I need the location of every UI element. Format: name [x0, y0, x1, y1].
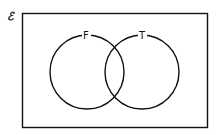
set-f-circle [50, 35, 124, 109]
set-t-label: T [138, 30, 146, 41]
set-t-circle [105, 35, 179, 109]
universal-set-symbol: ℰ [7, 10, 15, 23]
venn-diagram: ℰ F T [0, 0, 217, 135]
set-f-label: F [83, 30, 89, 41]
